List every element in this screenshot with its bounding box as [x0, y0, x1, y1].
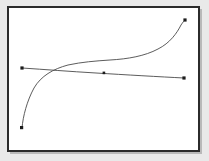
plot-screenshot	[0, 0, 209, 161]
plot-canvas	[9, 8, 198, 150]
